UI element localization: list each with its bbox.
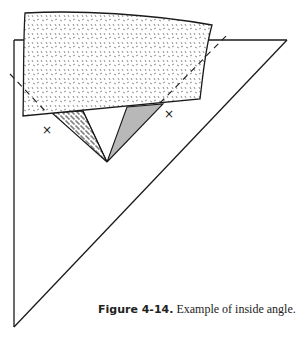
x-mark-left: × <box>42 123 52 137</box>
figure-label: Figure 4-14. <box>98 303 173 316</box>
hatched-wedge <box>52 111 107 162</box>
gray-wedge <box>107 104 163 162</box>
inside-angle-diagram: × × <box>0 0 298 340</box>
x-mark-right: × <box>164 107 174 121</box>
figure-caption-text: Example of inside angle. <box>173 302 295 316</box>
figure-caption: Figure 4-14. Example of inside angle. <box>98 302 296 317</box>
stippled-overlay <box>23 12 212 116</box>
